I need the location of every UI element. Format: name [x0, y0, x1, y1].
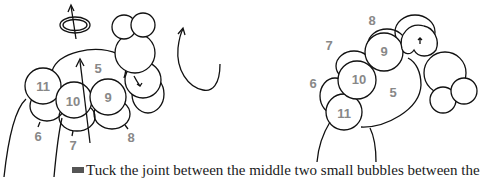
caption-text: Tuck the joint between the middle two sm…: [86, 162, 480, 178]
label-8-left: 8: [127, 131, 134, 144]
curved-arrow-icon: [178, 28, 220, 90]
label-11-right: 11: [337, 107, 351, 120]
instruction-caption: Tuck the joint between the middle two sm…: [72, 163, 480, 178]
label-9-right: 9: [380, 45, 387, 58]
rotate-icon: [60, 5, 90, 39]
bullet-icon: [72, 167, 84, 173]
label-8-right: 8: [368, 14, 375, 27]
label-10-right: 10: [352, 73, 366, 86]
label-9-left: 9: [104, 91, 111, 104]
label-5-left: 5: [94, 62, 101, 75]
label-10-left: 10: [66, 95, 80, 108]
label-5-right: 5: [389, 86, 396, 99]
label-6-left: 6: [34, 130, 41, 143]
label-6-right: 6: [309, 77, 316, 90]
label-11-left: 11: [36, 80, 50, 93]
label-7-right: 7: [325, 39, 332, 52]
label-7-left: 7: [69, 139, 76, 152]
